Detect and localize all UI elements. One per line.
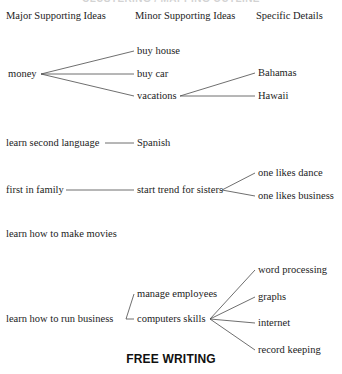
node-start-trend-for-sisters: start trend for sisters (137, 185, 223, 196)
cropped-figure-title: CLUSTERING / MAPPING OUTLINE (0, 0, 342, 4)
node-computers-skills: computers skills (137, 314, 206, 325)
column-header-major-supporting-ideas: Major Supporting Ideas (6, 10, 106, 21)
connector-vacations-bahamas (180, 73, 255, 96)
connector-sisters-one-likes-dance (222, 173, 255, 190)
column-header-specific-details: Specific Details (256, 10, 323, 21)
node-buy-car: buy car (137, 69, 168, 80)
column-header-minor-supporting-ideas: Minor Supporting Ideas (135, 10, 235, 21)
clustering-map-figure: CLUSTERING / MAPPING OUTLINE Major Suppo… (0, 0, 342, 374)
node-buy-house: buy house (137, 46, 180, 57)
node-hawaii: Hawaii (258, 91, 288, 102)
node-learn-second-language: learn second language (6, 138, 99, 149)
node-money: money (8, 69, 37, 80)
connector-sisters-one-likes-business (222, 190, 255, 196)
node-first-in-family: first in family (6, 185, 64, 196)
connector-computers-record-keeping (210, 319, 255, 350)
node-vacations: vacations (137, 91, 177, 102)
node-one-likes-dance: one likes dance (258, 168, 323, 179)
node-graphs: graphs (258, 292, 286, 303)
node-internet: internet (258, 318, 290, 329)
node-spanish: Spanish (137, 138, 170, 149)
node-learn-how-to-run-business: learn how to run business (6, 314, 113, 325)
connector-business-manage-employees (126, 294, 134, 319)
node-manage-employees: manage employees (137, 289, 217, 300)
connector-money-vacations (41, 74, 134, 96)
node-learn-how-to-make-movies: learn how to make movies (6, 229, 117, 240)
node-bahamas: Bahamas (258, 68, 297, 79)
connector-computers-graphs (210, 297, 255, 319)
node-word-processing: word processing (258, 265, 327, 276)
node-one-likes-business: one likes business (258, 191, 334, 202)
connector-money-buy-house (41, 51, 134, 74)
footer-caption-free-writing: FREE WRITING (0, 352, 342, 366)
connector-computers-internet (210, 319, 255, 323)
